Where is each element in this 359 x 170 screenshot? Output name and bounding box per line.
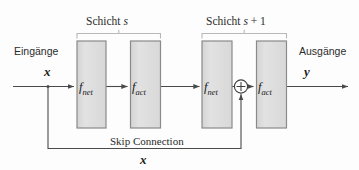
skip-variable: x — [140, 153, 147, 166]
bracket-layer-s — [77, 30, 161, 39]
diagram-canvas: Schicht s Schicht s + 1 fnet fact fnet f… — [0, 0, 359, 170]
input-caption: Eingänge — [14, 46, 58, 57]
skip-connection-label: Skip Connection — [110, 136, 184, 147]
block-label-fact-s-plus-1: fact — [258, 81, 272, 96]
block-label-fact-s: fact — [132, 81, 146, 96]
block-label-fnet-s: fnet — [79, 81, 93, 96]
bracket-layer-s-plus-1 — [202, 30, 287, 39]
sum-node[interactable] — [234, 80, 247, 93]
block-label-fnet-s-plus-1: fnet — [204, 81, 218, 96]
bracket-label-layer-s: Schicht s — [86, 16, 128, 28]
output-caption: Ausgänge — [299, 46, 346, 57]
bracket-label-layer-s-plus-1: Schicht s + 1 — [206, 16, 266, 28]
input-variable: x — [44, 65, 51, 78]
output-variable: y — [304, 65, 310, 78]
